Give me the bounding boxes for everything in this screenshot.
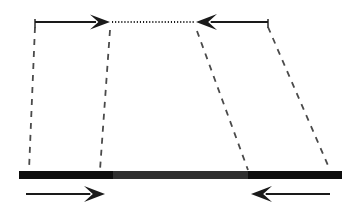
projection-line-3 [197, 31, 248, 170]
figure-container [0, 0, 358, 210]
horizontal-bar [19, 171, 342, 179]
projection-line-4 [268, 27, 330, 170]
bar-segment-right [248, 171, 342, 179]
bar-segment-middle [113, 171, 248, 179]
diagram-canvas [0, 0, 358, 210]
bar-segment-left [19, 171, 113, 179]
projection-line-1 [29, 27, 35, 170]
upper-left-arrow [35, 15, 110, 30]
lower-left-arrow [26, 186, 105, 202]
projection-line-2 [100, 30, 110, 170]
upper-right-arrow [196, 14, 268, 30]
lower-right-arrow [251, 186, 330, 202]
